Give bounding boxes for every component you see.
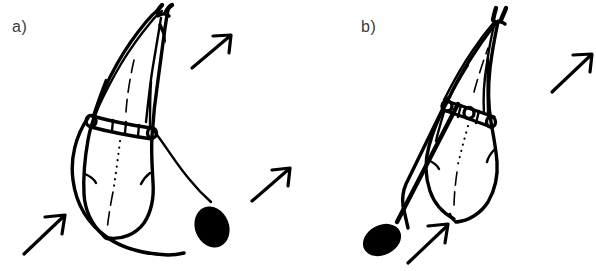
- harness-ring-left: [442, 101, 452, 111]
- black-ellipse-a: [188, 201, 235, 253]
- arrow-upper-right-a: [192, 35, 231, 68]
- panel-a: a): [0, 0, 298, 271]
- harness-ring-left: [86, 116, 96, 127]
- arrow-middle-right-a: [252, 168, 290, 201]
- mantle-midline-a: [107, 60, 134, 231]
- panel-a-drawing: [0, 0, 298, 271]
- terminal-fins-b: [444, 8, 506, 114]
- harness-ring-mid: [464, 108, 474, 119]
- arrow-lower-left-a: [24, 215, 65, 254]
- arrow-lower-left-b: [408, 224, 448, 263]
- arrow-upper-right-b: [552, 54, 592, 92]
- panel-b-drawing: [298, 0, 596, 271]
- panel-b: b): [298, 0, 596, 271]
- figure-container: a): [0, 0, 596, 271]
- black-ellipse-b: [357, 218, 406, 263]
